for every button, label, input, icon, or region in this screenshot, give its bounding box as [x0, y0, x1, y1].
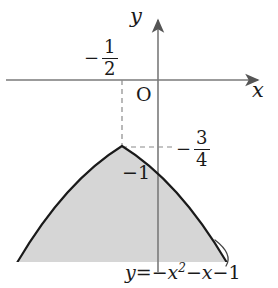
vertex-x-numerator: 1 — [102, 38, 117, 58]
equation-term1-exponent: 2 — [178, 261, 186, 275]
equation-term2: x — [202, 261, 213, 283]
equation-term2-sign: − — [186, 261, 202, 283]
equation-term1-sign: − — [152, 261, 168, 283]
vertex-y-denominator: 4 — [194, 149, 209, 170]
equation-term1-base: x — [168, 261, 179, 283]
y-axis-label: y — [130, 6, 142, 27]
x-axis-label: x — [252, 80, 264, 101]
y-intercept-label: −1 — [122, 163, 150, 182]
vertex-y-fraction: 3 4 — [194, 129, 209, 169]
vertex-x-denominator: 2 — [102, 58, 117, 79]
origin-label: O — [136, 85, 152, 104]
math-figure: y x O − 1 2 − 3 4 −1 y=−x2−x−1 — [0, 0, 278, 288]
vertex-y-minus-sign: − — [176, 140, 191, 158]
equation-term3: 1 — [229, 261, 241, 283]
parabola-plot — [0, 0, 278, 288]
equation-equals: = — [136, 261, 152, 283]
vertex-y-numerator: 3 — [194, 129, 209, 149]
equation-term3-sign: − — [213, 261, 229, 283]
equation-lhs: y — [125, 261, 136, 283]
equation-label: y=−x2−x−1 — [125, 262, 241, 282]
vertex-x-fraction: 1 2 — [102, 38, 117, 78]
vertex-x-label: − 1 2 — [84, 38, 118, 78]
vertex-y-label: − 3 4 — [176, 129, 210, 169]
vertex-x-minus-sign: − — [84, 49, 99, 67]
